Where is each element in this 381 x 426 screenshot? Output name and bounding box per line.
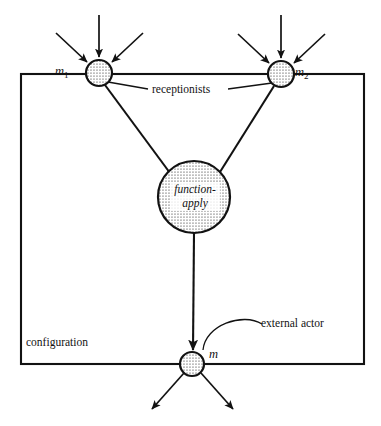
leader-receptionists-m2 xyxy=(228,83,272,89)
edge-function-apply-to-m xyxy=(193,233,194,350)
leader-external-actor xyxy=(203,319,262,350)
receptionists-label: receptionists xyxy=(152,84,210,96)
node-m1[interactable] xyxy=(86,60,112,86)
external-actor-label: external actor xyxy=(261,318,324,330)
incoming-arrow-m1-right xyxy=(112,33,143,62)
incoming-arrow-m2-right xyxy=(294,34,325,63)
incoming-arrow-m1-left xyxy=(56,33,87,62)
outgoing-arrow-m-left xyxy=(152,373,184,409)
node-label-m: m xyxy=(209,348,218,361)
node-label-m1: m1 xyxy=(55,65,69,80)
node-m2[interactable] xyxy=(268,61,294,87)
outgoing-arrow-m-right xyxy=(201,373,233,409)
configuration-label: configuration xyxy=(26,337,88,349)
incoming-arrow-m2-left xyxy=(238,34,269,63)
edge-m1-to-function-apply xyxy=(105,85,170,173)
diagram-canvas: m1 m2 m receptionists configuration exte… xyxy=(0,0,381,426)
edge-m2-to-function-apply xyxy=(220,86,274,172)
node-m[interactable] xyxy=(180,352,204,376)
node-label-m2: m2 xyxy=(295,66,309,81)
leader-receptionists-m1 xyxy=(108,82,148,89)
node-label-function-apply: function-apply xyxy=(167,182,223,211)
